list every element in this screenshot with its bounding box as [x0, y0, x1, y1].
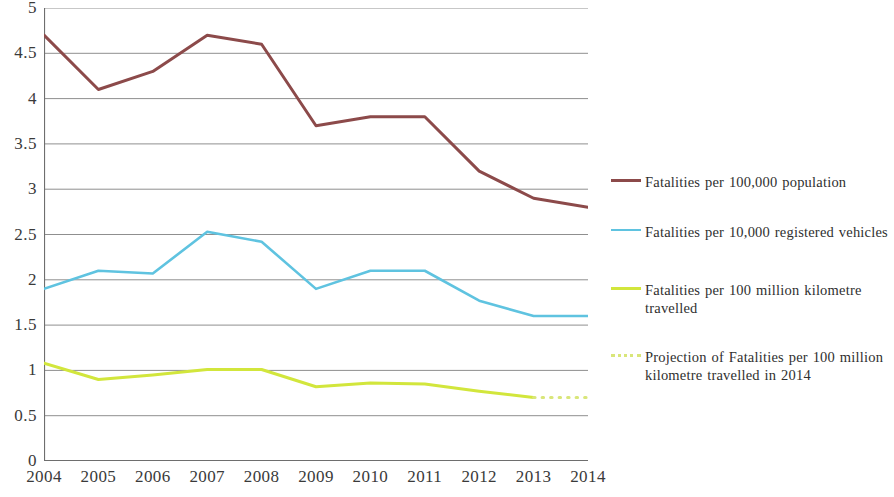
y-tick-label: 4	[28, 90, 37, 107]
x-tick-label: 2008	[244, 466, 280, 488]
legend-label: Fatalities per 10,000 registered vehicle…	[645, 223, 888, 241]
y-tick-label: 3	[28, 180, 37, 197]
x-axis: 2004200520062007200820092010201120122013…	[44, 466, 588, 496]
legend-swatch-icon	[611, 281, 641, 295]
plot-canvas	[44, 8, 588, 461]
y-tick-label: 5	[28, 0, 37, 16]
x-tick-label: 2007	[189, 466, 225, 488]
legend-swatch-icon	[611, 348, 641, 362]
series-line	[44, 35, 588, 207]
x-tick-label: 2012	[461, 466, 497, 488]
x-tick-label: 2006	[135, 466, 171, 488]
series-line	[44, 363, 534, 397]
y-tick-label: 2.5	[14, 226, 37, 243]
x-tick-label: 2013	[516, 466, 552, 488]
legend-label: Fatalities per 100 million kilometre tra…	[645, 281, 894, 317]
y-tick-label: 1	[28, 361, 37, 378]
y-tick-label: 2	[28, 271, 37, 288]
legend-label: Fatalities per 100,000 population	[645, 173, 846, 191]
x-tick-label: 2009	[298, 466, 334, 488]
x-tick-label: 2005	[81, 466, 117, 488]
y-axis: 00.511.522.533.544.55	[0, 0, 44, 469]
y-tick-label: 3.5	[14, 135, 37, 152]
legend-label: Projection of Fatalities per 100 million…	[645, 348, 894, 384]
gridlines	[44, 8, 588, 416]
x-tick-label: 2014	[570, 466, 606, 488]
x-tick-label: 2011	[407, 466, 442, 488]
line-chart: 00.511.522.533.544.55 200420052006200720…	[0, 0, 894, 497]
series-line	[44, 232, 588, 316]
legend-swatch-icon	[611, 173, 641, 187]
plot-area	[44, 8, 588, 461]
legend-item[interactable]: Fatalities per 100 million kilometre tra…	[611, 281, 894, 317]
x-tick-label: 2004	[26, 466, 62, 488]
legend-item[interactable]: Projection of Fatalities per 100 million…	[611, 348, 894, 384]
y-tick-label: 0.5	[14, 407, 37, 424]
legend-swatch-icon	[611, 223, 641, 237]
legend-item[interactable]: Fatalities per 100,000 population	[611, 173, 894, 191]
x-tick-label: 2010	[353, 466, 389, 488]
series-lines	[44, 35, 588, 397]
y-tick-label: 1.5	[14, 316, 37, 333]
y-tick-label: 4.5	[14, 44, 37, 61]
legend-item[interactable]: Fatalities per 10,000 registered vehicle…	[611, 223, 894, 241]
